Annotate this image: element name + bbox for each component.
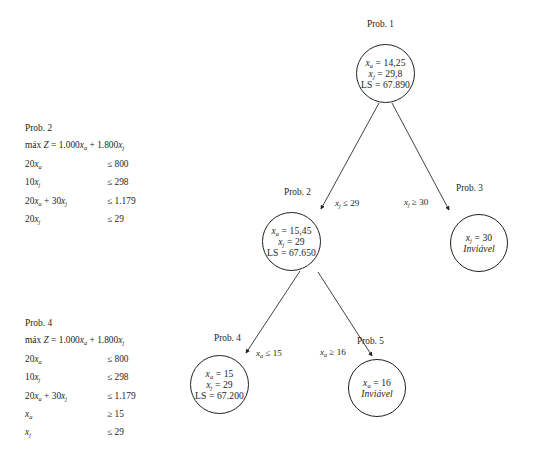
node-prob3: xj = 30 Inviável xyxy=(450,214,508,272)
model2-constraint-rhs: ≤ 800 xyxy=(107,160,129,169)
edge-n1-n3 xyxy=(392,103,449,210)
model2-constraint-rhs: ≤ 298 xyxy=(107,178,129,187)
model4-constraint-row: 20xa ≤ 800 xyxy=(25,355,136,364)
model2-objective: máx Z = 1.000xa + 1.800xj xyxy=(25,141,136,150)
node-prob4-line2: xj = 29 xyxy=(206,379,232,390)
model4-constraint-rhs: ≥ 15 xyxy=(107,410,124,419)
node-prob2-line2: xj = 29 xyxy=(278,236,304,247)
node-prob4-line3: LS = 67.200 xyxy=(195,390,244,401)
edge-label-n2-n5: xa ≥ 16 xyxy=(320,347,346,357)
model4-constraint-lhs: 20xa + 30xj xyxy=(25,392,107,401)
model4-constraint-rhs: ≤ 298 xyxy=(107,373,129,382)
model4-constraint-rhs: ≤ 29 xyxy=(107,428,124,437)
node-prob4-line1: xa = 15 xyxy=(206,368,234,379)
model4-objective: máx Z = 1.000xa + 1.800xj xyxy=(25,336,136,345)
model4-constraint-lhs: 10xj xyxy=(25,373,107,382)
model4-constraint-rhs: ≤ 800 xyxy=(107,355,129,364)
edge-n2-n4 xyxy=(246,271,300,353)
model2-title: Prob. 2 xyxy=(25,124,136,133)
node-caption-prob4: Prob. 4 xyxy=(214,333,241,343)
model4-constraint-row: xj ≤ 29 xyxy=(25,428,136,437)
node-prob1: xa = 14,25 xj = 29,8 LS = 67.890 xyxy=(356,44,415,103)
model2-constraint-row: 20xa + 30xj ≤ 1.179 xyxy=(25,197,136,206)
model2-constraint-lhs: 20xa + 30xj xyxy=(25,197,107,206)
node-prob3-line1: xj = 30 xyxy=(466,232,492,243)
model2-constraint-lhs: 10xj xyxy=(25,178,107,187)
edge-label-n1-n2: xj ≤ 29 xyxy=(335,198,359,208)
model2-constraint-row: 10xj ≤ 298 xyxy=(25,178,136,187)
node-prob4: xa = 15 xj = 29 LS = 67.200 xyxy=(190,355,249,414)
model4-constraint-row: 20xa + 30xj ≤ 1.179 xyxy=(25,392,136,401)
model2-constraint-row: 20xj ≤ 29 xyxy=(25,215,136,224)
model4-constraint-row: xa ≥ 15 xyxy=(25,410,136,419)
node-prob2-line3: LS = 67.650 xyxy=(267,247,316,258)
model4-title: Prob. 4 xyxy=(25,319,136,328)
model4-constraint-lhs: xa xyxy=(25,410,107,419)
model4-constraint-rhs: ≤ 1.179 xyxy=(107,392,136,401)
edge-label-n1-n3: xj ≥ 30 xyxy=(404,197,428,207)
model2-constraint-rhs: ≤ 1.179 xyxy=(107,197,136,206)
edge-label-n2-n4: xa ≤ 15 xyxy=(256,348,282,358)
edge-n1-n2 xyxy=(321,103,379,209)
node-prob5: xa = 16 Inviável xyxy=(348,359,406,417)
model4-constraint-lhs: xj xyxy=(25,428,107,437)
node-prob2: xa = 15,45 xj = 29 LS = 67.650 xyxy=(262,212,321,271)
node-prob5-line2: Inviável xyxy=(361,388,393,399)
model4-constraint-row: 10xj ≤ 298 xyxy=(25,373,136,382)
node-prob2-line1: xa = 15,45 xyxy=(271,225,311,236)
node-prob3-line2: Inviável xyxy=(463,243,495,254)
model2-constraint-rhs: ≤ 29 xyxy=(107,215,124,224)
model2-constraint-lhs: 20xj xyxy=(25,215,107,224)
diagram-canvas: Prob. 1 xa = 14,25 xj = 29,8 LS = 67.890… xyxy=(0,0,539,449)
node-prob5-line1: xa = 16 xyxy=(363,377,391,388)
model-block-prob2: Prob. 2 máx Z = 1.000xa + 1.800xj 20xa ≤… xyxy=(25,124,136,233)
node-prob1-line1: xa = 14,25 xyxy=(365,57,405,68)
node-caption-prob3: Prob. 3 xyxy=(456,183,483,193)
model2-constraint-row: 20xa ≤ 800 xyxy=(25,160,136,169)
node-caption-prob5: Prob. 5 xyxy=(357,336,384,346)
node-caption-prob1: Prob. 1 xyxy=(367,19,394,29)
model4-constraint-lhs: 20xa xyxy=(25,355,107,364)
node-prob1-line2: xj = 29,8 xyxy=(369,68,403,79)
node-prob1-line3: LS = 67.890 xyxy=(361,79,410,90)
node-caption-prob2: Prob. 2 xyxy=(284,187,311,197)
model-block-prob4: Prob. 4 máx Z = 1.000xa + 1.800xj 20xa ≤… xyxy=(25,319,136,447)
model2-constraint-lhs: 20xa xyxy=(25,160,107,169)
